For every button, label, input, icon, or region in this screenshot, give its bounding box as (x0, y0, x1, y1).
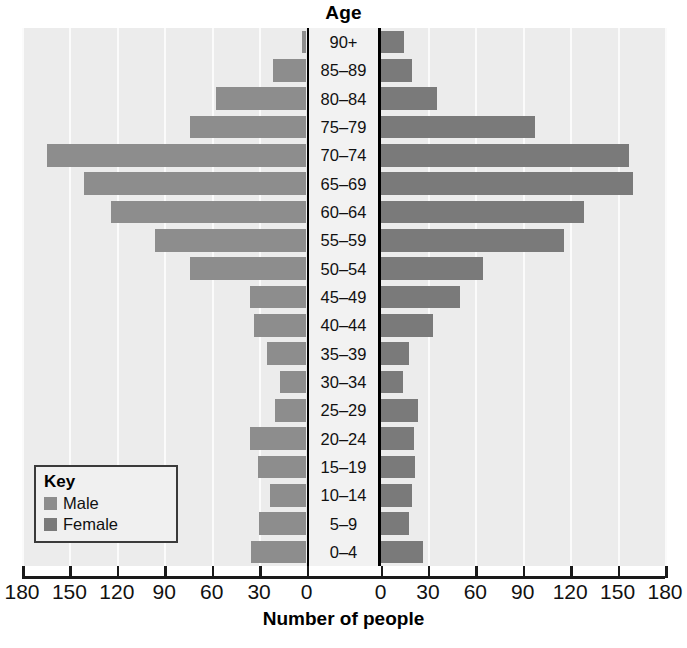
bar-female (381, 541, 424, 564)
bar-female (381, 257, 484, 280)
bar-female (381, 342, 409, 365)
bar-male (84, 172, 307, 195)
x-axis-tick-label: 0 (375, 580, 387, 604)
bar-male (111, 201, 307, 224)
x-axis-tick (259, 566, 262, 578)
age-group-label: 15–19 (307, 459, 381, 476)
age-label-band: 90+85–8980–8475–7970–7465–6960–6455–5950… (307, 28, 381, 566)
bar-male (251, 541, 306, 564)
age-group-label: 85–89 (307, 62, 381, 79)
bar-female (381, 201, 585, 224)
bar-female (381, 456, 416, 479)
bar-male (267, 342, 307, 365)
x-axis-tick-label: 120 (553, 580, 588, 604)
age-group-label: 50–54 (307, 261, 381, 278)
bar-male (259, 512, 306, 535)
bar-male (155, 229, 307, 252)
x-axis-tick (22, 566, 25, 578)
age-group-label: 70–74 (307, 147, 381, 164)
x-axis-tick-label: 90 (511, 580, 534, 604)
x-axis (22, 566, 665, 578)
bar-male (275, 399, 307, 422)
bar-female (381, 371, 403, 394)
x-axis-title: Number of people (0, 608, 687, 630)
bar-male (254, 314, 306, 337)
bar-female (381, 59, 413, 82)
age-group-label: 60–64 (307, 204, 381, 221)
bar-male (190, 116, 307, 139)
bar-female (381, 286, 460, 309)
bar-female (381, 229, 564, 252)
chart-title: Age (0, 2, 687, 24)
bar-female (381, 512, 409, 535)
age-group-label: 75–79 (307, 119, 381, 136)
legend-key: Key Male Female (34, 465, 178, 543)
bar-male (273, 59, 306, 82)
age-group-label: 35–39 (307, 346, 381, 363)
x-axis-tick-label: 120 (99, 580, 134, 604)
gridline (665, 28, 667, 566)
x-axis-tick-label: 30 (416, 580, 439, 604)
age-group-label: 20–24 (307, 431, 381, 448)
bar-male (270, 484, 306, 507)
bar-male (250, 286, 307, 309)
x-axis-tick (570, 566, 573, 578)
x-axis-tick-label: 60 (464, 580, 487, 604)
x-axis-tick-label: 180 (4, 580, 39, 604)
bar-male (250, 427, 307, 450)
age-group-label: 30–34 (307, 374, 381, 391)
bar-female (381, 427, 414, 450)
x-axis-tick-label: 0 (301, 580, 313, 604)
bar-male (47, 144, 306, 167)
bar-female (381, 484, 413, 507)
x-axis-tick (665, 566, 668, 578)
x-axis-tick-label: 150 (52, 580, 87, 604)
x-axis-tick (69, 566, 72, 578)
age-group-label: 55–59 (307, 232, 381, 249)
legend-item-male: Male (44, 494, 168, 513)
bar-female (381, 87, 438, 110)
x-axis-tick (164, 566, 167, 578)
age-group-label: 45–49 (307, 289, 381, 306)
legend-label-male: Male (63, 494, 99, 513)
x-axis-tick (428, 566, 431, 578)
legend-label-female: Female (63, 515, 118, 534)
population-pyramid-chart: Age 90+85–8980–8475–7970–7465–6960–6455–… (0, 0, 687, 648)
age-group-label: 10–14 (307, 487, 381, 504)
x-axis-tick-label: 150 (600, 580, 635, 604)
legend-item-female: Female (44, 515, 168, 534)
x-axis-tick (381, 566, 384, 578)
age-group-label: 90+ (307, 34, 381, 51)
age-group-label: 65–69 (307, 176, 381, 193)
bar-male (258, 456, 307, 479)
bar-male (190, 257, 307, 280)
bar-male (216, 87, 306, 110)
age-group-label: 80–84 (307, 91, 381, 108)
bar-female (381, 144, 629, 167)
bar-male (280, 371, 307, 394)
x-axis-tick-labels: 18015012090603000306090120150180 (0, 580, 687, 610)
age-group-label: 25–29 (307, 402, 381, 419)
bar-female (381, 31, 405, 54)
bar-female (381, 172, 634, 195)
bar-female (381, 116, 536, 139)
x-axis-tick (523, 566, 526, 578)
x-axis-tick-label: 60 (200, 580, 223, 604)
legend-swatch-male-icon (44, 497, 57, 510)
x-axis-tick (117, 566, 120, 578)
x-axis-tick (618, 566, 621, 578)
x-axis-tick (307, 566, 310, 578)
x-axis-tick-label: 180 (647, 580, 682, 604)
bar-female (381, 314, 433, 337)
x-axis-tick (475, 566, 478, 578)
legend-swatch-female-icon (44, 518, 57, 531)
x-axis-tick-label: 90 (153, 580, 176, 604)
age-group-label: 40–44 (307, 317, 381, 334)
x-axis-tick-label: 30 (247, 580, 270, 604)
bar-female (381, 399, 419, 422)
legend-title: Key (44, 472, 168, 492)
x-axis-tick (212, 566, 215, 578)
age-group-label: 5–9 (307, 516, 381, 533)
age-group-label: 0–4 (307, 544, 381, 561)
